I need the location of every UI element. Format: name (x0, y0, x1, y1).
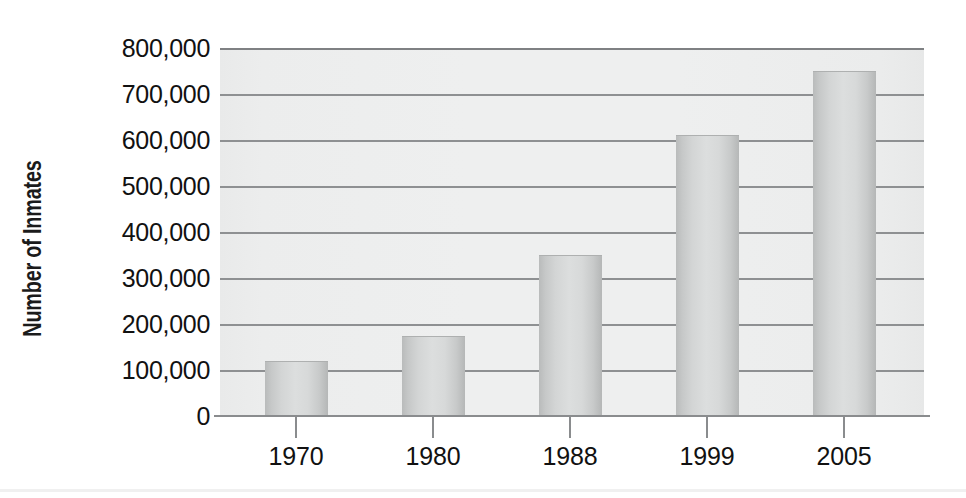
bar-1970 (265, 361, 328, 416)
x-tick-1988 (569, 417, 571, 438)
y-tick-label-200000: 200,000 (78, 312, 210, 337)
x-tick-1999 (706, 417, 708, 438)
bar-1988 (539, 255, 602, 416)
plot-area (220, 48, 924, 416)
x-tick-label-1999: 1999 (637, 444, 777, 469)
y-tick-label-0: 0 (78, 404, 210, 429)
y-tick-label-600000: 600,000 (78, 128, 210, 153)
gridline-800000 (220, 48, 924, 50)
bar-1980 (402, 336, 465, 417)
x-tick-1980 (432, 417, 434, 438)
y-tick-label-800000: 800,000 (78, 36, 210, 61)
x-tick-label-1970: 1970 (226, 444, 366, 469)
y-tick-label-400000: 400,000 (78, 220, 210, 245)
page-bottom-rule (0, 489, 966, 492)
x-tick-label-2005: 2005 (774, 444, 914, 469)
bar-chart-figure: Number of Inmates 800,000 700,000 600,00… (0, 0, 966, 498)
y-axis-title: Number of Inmates (0, 0, 64, 498)
x-tick-1970 (295, 417, 297, 438)
y-tick-label-700000: 700,000 (78, 82, 210, 107)
x-axis-line (214, 415, 930, 417)
x-tick-label-1980: 1980 (363, 444, 503, 469)
bar-1999 (676, 135, 739, 416)
x-tick-label-1988: 1988 (500, 444, 640, 469)
bar-2005 (813, 71, 876, 416)
x-tick-2005 (843, 417, 845, 438)
y-tick-label-300000: 300,000 (78, 266, 210, 291)
y-tick-label-100000: 100,000 (78, 358, 210, 383)
y-axis-title-label: Number of Inmates (17, 161, 48, 337)
y-tick-label-500000: 500,000 (78, 174, 210, 199)
y-axis-tick-labels: 800,000 700,000 600,000 500,000 400,000 … (60, 0, 210, 498)
